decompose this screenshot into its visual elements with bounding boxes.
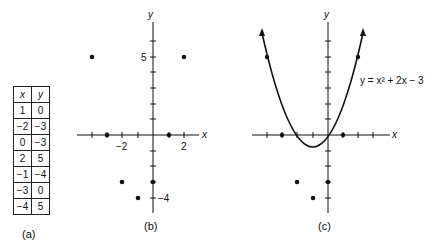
tick-label: −4 (158, 193, 170, 204)
data-points-b (90, 55, 187, 201)
scatter-plot-b (77, 22, 199, 213)
equation-label: y = x² + 2x − 3 (360, 75, 424, 86)
tick-label: −2 (116, 141, 128, 152)
arrow-up-icon (259, 28, 265, 36)
x-axis-label-c: x (391, 129, 398, 140)
plots: y x −2 2 5 −4 y x y = x² + 2x − 3 (0, 0, 439, 242)
x-axis-label-b: x (201, 129, 208, 140)
tick-label: 5 (141, 52, 147, 63)
y-axis-label-c: y (323, 9, 330, 20)
arrow-up-icon (360, 28, 366, 36)
y-axis-label-b: y (147, 9, 154, 20)
parabola-plot-c (252, 22, 390, 213)
data-points-c (259, 28, 366, 200)
tick-label: 2 (181, 141, 187, 152)
